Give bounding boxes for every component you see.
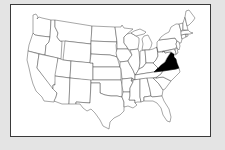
state-wyoming bbox=[63, 41, 91, 63]
state-rhode-island bbox=[186, 34, 188, 37]
state-maine bbox=[185, 10, 195, 26]
state-new-mexico bbox=[69, 78, 91, 104]
state-arizona bbox=[53, 76, 70, 104]
state-kansas bbox=[93, 67, 121, 80]
state-montana bbox=[55, 20, 92, 44]
state-utah bbox=[55, 58, 71, 78]
state-north-dakota bbox=[91, 26, 117, 42]
map-frame: United States map bbox=[10, 4, 211, 137]
state-florida bbox=[144, 96, 171, 122]
us-map bbox=[11, 5, 210, 136]
state-colorado bbox=[70, 61, 93, 81]
state-washington bbox=[33, 14, 51, 37]
